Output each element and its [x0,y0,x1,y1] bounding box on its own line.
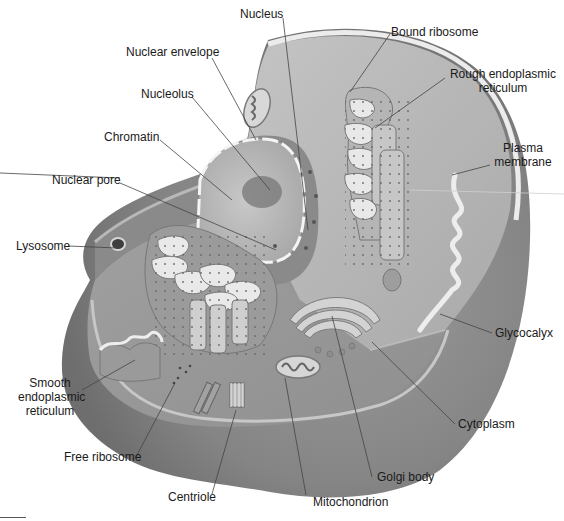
corner-rule [0,517,26,518]
label-plasma-membrane: Plasma membrane [492,141,554,169]
label-cytoplasm: Cytoplasm [458,417,515,431]
vesicle [383,269,401,291]
label-nuclear-pore: Nuclear pore [52,173,121,187]
label-rough-er: Rough endoplasmic reticulum [443,67,563,95]
label-rough-er-line1: Rough endoplasmic [443,67,563,81]
label-chromatin: Chromatin [104,130,159,144]
rough-er-left [145,225,277,355]
label-mitochondrion: Mitochondrion [313,495,388,509]
label-golgi-body: Golgi body [377,470,434,484]
label-nucleus: Nucleus [240,7,283,21]
label-smooth-er-line3: reticulum [18,404,82,418]
rough-er-stacks [340,87,410,265]
label-bound-ribosome: Bound ribosome [391,25,478,39]
label-free-ribosome: Free ribosome [64,450,141,464]
label-rough-er-line2: reticulum [443,81,563,95]
label-glycocalyx: Glycocalyx [495,326,553,340]
label-smooth-er-line1: Smooth [18,376,82,390]
label-nuclear-envelope: Nuclear envelope [126,45,219,59]
label-plasma-membrane-line2: membrane [492,155,554,169]
label-centriole: Centriole [168,490,216,504]
label-plasma-membrane-line1: Plasma [492,141,554,155]
label-nucleolus: Nucleolus [141,87,194,101]
label-smooth-er: Smooth endoplasmic reticulum [18,376,82,418]
label-smooth-er-line2: endoplasmic [18,390,82,404]
cell-diagram: Nucleus Nuclear envelope Nucleolus Chrom… [0,0,564,521]
label-lysosome: Lysosome [16,239,70,253]
